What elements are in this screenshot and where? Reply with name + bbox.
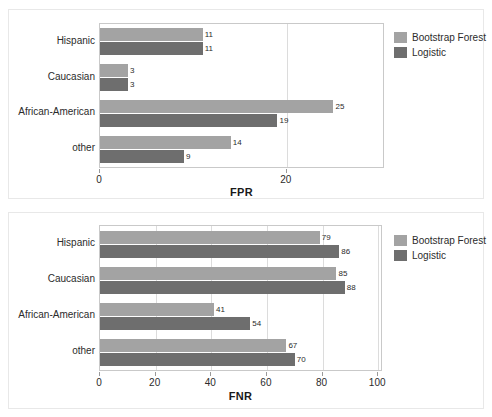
- legend-swatch-icon-logistic: [394, 250, 407, 261]
- category-label: Hispanic: [11, 35, 99, 46]
- bar-value-label: 79: [322, 231, 331, 244]
- category-axis-fpr: HispanicCaucasianAfrican-Americanother: [9, 23, 99, 168]
- category-label: other: [11, 345, 99, 356]
- axis-tick-mark: [155, 372, 156, 376]
- bar: [100, 78, 128, 91]
- axis-tick-label: 0: [96, 377, 102, 388]
- bar: [100, 281, 345, 294]
- bar: [100, 353, 295, 366]
- category-label: African-American: [11, 309, 99, 320]
- bar-value-label: 25: [335, 100, 344, 113]
- bar: [100, 339, 286, 352]
- category-label: Hispanic: [11, 237, 99, 248]
- plot-area-fnr: 7986858841546770: [99, 225, 382, 371]
- bar: [100, 64, 128, 77]
- bar-value-label: 85: [338, 267, 347, 280]
- axis-tick-mark: [322, 372, 323, 376]
- legend-fpr: Bootstrap Forest Logistic: [394, 32, 486, 62]
- axis-tick-mark: [377, 372, 378, 376]
- bar-value-label: 41: [216, 303, 225, 316]
- legend-swatch-icon-bootstrap-forest: [394, 235, 407, 246]
- gridline: [378, 226, 379, 370]
- category-label: African-American: [11, 106, 99, 117]
- legend-item-bootstrap-forest: Bootstrap Forest: [394, 32, 486, 43]
- axis-tick-label: 80: [316, 377, 327, 388]
- bar-value-label: 9: [186, 150, 190, 163]
- legend-label-logistic: Logistic: [412, 47, 446, 58]
- bar-value-label: 3: [130, 78, 134, 91]
- axis-tick-label: 0: [96, 174, 102, 185]
- bar: [100, 42, 203, 55]
- legend-item-logistic: Logistic: [394, 250, 486, 261]
- bar-value-label: 11: [205, 28, 213, 41]
- legend-fnr: Bootstrap Forest Logistic: [394, 235, 486, 265]
- plot-area-fpr: 1111332519149: [99, 23, 384, 168]
- chart-area-fnr: HispanicCaucasianAfrican-Americanother 7…: [9, 213, 483, 408]
- legend-label-bootstrap-forest: Bootstrap Forest: [412, 235, 486, 246]
- axis-tick-label: 40: [205, 377, 216, 388]
- legend-label-bootstrap-forest: Bootstrap Forest: [412, 32, 486, 43]
- bar-value-label: 14: [233, 136, 242, 149]
- bar: [100, 28, 203, 41]
- axis-tick-mark: [210, 372, 211, 376]
- axis-tick-label: 100: [369, 377, 386, 388]
- axis-tick-mark: [99, 169, 100, 173]
- bar: [100, 136, 231, 149]
- category-label: Caucasian: [11, 71, 99, 82]
- legend-swatch-icon-logistic: [394, 47, 407, 58]
- bar-value-label: 54: [252, 317, 261, 330]
- axis-tick-label: 60: [260, 377, 271, 388]
- bar: [100, 303, 214, 316]
- axis-tick-mark: [286, 169, 287, 173]
- category-label: other: [11, 142, 99, 153]
- axis-title-fnr: FNR: [99, 390, 382, 402]
- axis-tick-mark: [99, 372, 100, 376]
- gridline: [287, 24, 288, 167]
- bar-value-label: 70: [297, 353, 306, 366]
- legend-swatch-icon-bootstrap-forest: [394, 32, 407, 43]
- legend-item-bootstrap-forest: Bootstrap Forest: [394, 235, 486, 246]
- bar: [100, 267, 336, 280]
- bar: [100, 100, 333, 113]
- category-label: Caucasian: [11, 273, 99, 284]
- axis-tick-label: 20: [149, 377, 160, 388]
- chart-panel-fpr: HispanicCaucasianAfrican-Americanother 1…: [8, 9, 484, 199]
- bar-value-label: 3: [130, 64, 134, 77]
- bar-value-label: 11: [205, 42, 213, 55]
- axis-tick-label: 20: [280, 174, 291, 185]
- chart-area-fpr: HispanicCaucasianAfrican-Americanother 1…: [9, 10, 483, 198]
- bar: [100, 245, 339, 258]
- legend-item-logistic: Logistic: [394, 47, 486, 58]
- axis-tick-mark: [266, 372, 267, 376]
- chart-panel-fnr: HispanicCaucasianAfrican-Americanother 7…: [8, 212, 484, 409]
- legend-label-logistic: Logistic: [412, 250, 446, 261]
- category-axis-fnr: HispanicCaucasianAfrican-Americanother: [9, 225, 99, 371]
- bar-value-label: 88: [347, 281, 356, 294]
- bar-value-label: 19: [279, 114, 288, 127]
- axis-title-fpr: FPR: [99, 186, 384, 198]
- bar-value-label: 86: [341, 245, 350, 258]
- bar: [100, 231, 320, 244]
- bar-value-label: 67: [288, 339, 297, 352]
- bar: [100, 114, 277, 127]
- bar: [100, 150, 184, 163]
- bar: [100, 317, 250, 330]
